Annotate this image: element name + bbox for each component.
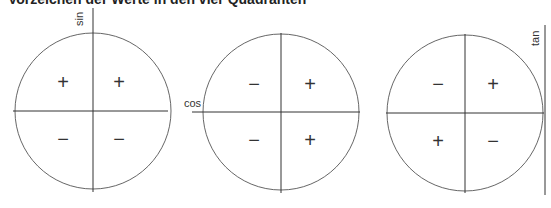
tan-axis-label: tan bbox=[529, 31, 541, 46]
tan-q2-sign: − bbox=[432, 73, 444, 95]
cos-q2-sign: − bbox=[248, 73, 260, 95]
cos-q1-sign: + bbox=[304, 73, 316, 95]
sin-q1-sign: + bbox=[113, 71, 125, 93]
cos-diagram: cos − + − + bbox=[184, 33, 360, 193]
sin-q3-sign: − bbox=[57, 128, 69, 150]
cos-axis-label: cos bbox=[184, 97, 202, 109]
tan-q4-sign: − bbox=[487, 130, 499, 152]
sin-diagram: sin + + − − bbox=[13, 8, 171, 192]
sin-q2-sign: + bbox=[57, 71, 69, 93]
tan-q1-sign: + bbox=[487, 73, 499, 95]
quadrant-diagrams: sin + + − − cos − + − + tan − + + − bbox=[0, 0, 551, 208]
tan-diagram: tan − + + − bbox=[386, 25, 545, 195]
cos-q4-sign: + bbox=[304, 129, 316, 151]
cos-q3-sign: − bbox=[248, 129, 260, 151]
sin-axis-label: sin bbox=[73, 12, 85, 26]
sin-q4-sign: − bbox=[113, 128, 125, 150]
tan-q3-sign: + bbox=[432, 130, 444, 152]
